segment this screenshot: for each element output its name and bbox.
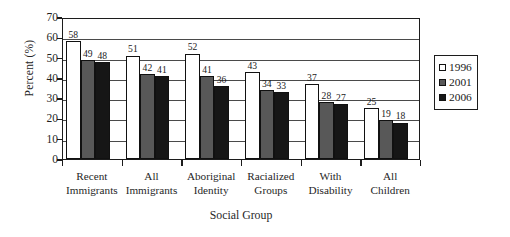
bar-value-label: 33: [270, 81, 293, 91]
bar-group: 524136: [185, 19, 229, 159]
bar-value-label: 41: [151, 65, 174, 75]
bar-value-label: 48: [91, 51, 114, 61]
gray-square-swatch: [439, 79, 446, 86]
x-tick-mark: [301, 160, 302, 166]
bar-value-label: 18: [389, 111, 412, 121]
y-axis-title: Percent (%): [23, 13, 35, 123]
y-tick-label: 0: [14, 154, 58, 166]
bar-chart: Percent (%) 706050403020100 584948514241…: [0, 0, 510, 237]
legend: 199620012006: [434, 55, 478, 110]
bar-group: 251918: [364, 19, 408, 159]
bar-value-label: 27: [330, 93, 353, 103]
y-tick-label: 40: [14, 73, 58, 85]
x-tick-mark: [62, 160, 63, 166]
y-tick-label: 20: [14, 113, 58, 125]
bar-2006-1[interactable]: [95, 62, 110, 159]
y-tick-label: 50: [14, 53, 58, 65]
bar-value-label: 58: [62, 30, 85, 40]
bar-value-label: 37: [301, 73, 324, 83]
y-tick-label: 10: [14, 134, 58, 146]
bar-group: 514241: [126, 19, 170, 159]
legend-item-2001[interactable]: 2001: [439, 75, 472, 90]
bar-2006-6[interactable]: [393, 123, 408, 160]
bar-2006-4[interactable]: [274, 92, 289, 159]
bar-2006-2[interactable]: [155, 76, 170, 159]
bar-group: 584948: [66, 19, 110, 159]
x-tick-mark: [360, 160, 361, 166]
bar-2001-4[interactable]: [260, 90, 275, 159]
bar-value-label: 52: [181, 42, 204, 52]
bar-value-label: 36: [210, 75, 233, 85]
plot-area: 584948514241524136433433372827251918: [62, 18, 420, 160]
legend-label: 2006: [449, 92, 472, 103]
legend-label: 1996: [449, 62, 472, 73]
x-tick-mark: [181, 160, 182, 166]
legend-item-1996[interactable]: 1996: [439, 60, 472, 75]
x-tick-label: All Children: [353, 170, 427, 197]
y-tick-label: 70: [14, 12, 58, 24]
bar-value-label: 41: [196, 65, 219, 75]
bar-2006-5[interactable]: [334, 104, 349, 159]
y-tick-label: 30: [14, 93, 58, 105]
legend-label: 2001: [449, 77, 472, 88]
x-axis-title: Social Group: [62, 208, 420, 223]
bar-value-label: 51: [122, 44, 145, 54]
bar-2001-3[interactable]: [200, 76, 215, 159]
bar-2006-3[interactable]: [214, 86, 229, 159]
x-tick-mark: [122, 160, 123, 166]
bar-1996-1[interactable]: [66, 41, 81, 159]
white-square-swatch: [439, 64, 446, 71]
bar-group: 433433: [245, 19, 289, 159]
bar-group: 372827: [305, 19, 349, 159]
bar-2001-6[interactable]: [379, 120, 394, 159]
bar-value-label: 43: [241, 61, 264, 71]
bar-value-label: 25: [360, 97, 383, 107]
bar-2001-5[interactable]: [319, 102, 334, 159]
bar-2001-2[interactable]: [140, 74, 155, 159]
black-square-swatch: [439, 94, 446, 101]
x-tick-mark: [420, 160, 421, 166]
legend-item-2006[interactable]: 2006: [439, 90, 472, 105]
x-tick-mark: [241, 160, 242, 166]
bar-2001-1[interactable]: [81, 60, 96, 159]
y-tick-label: 60: [14, 32, 58, 44]
